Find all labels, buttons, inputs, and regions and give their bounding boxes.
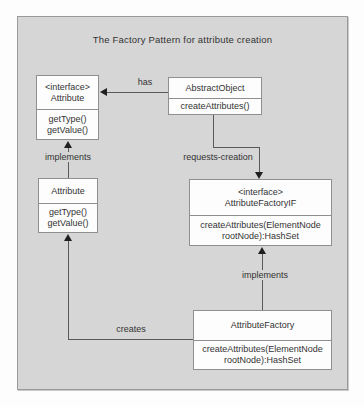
creates-edge-line: [68, 241, 69, 339]
requests-creation-edge-line: [213, 115, 214, 148]
class-name: Attribute: [39, 186, 97, 197]
member-label: getValue(): [37, 125, 98, 136]
creates-edge-line: [68, 339, 193, 340]
class-box-header: AttributeFactory: [194, 311, 331, 341]
class-box-abstract-object: AbstractObject createAttributes(): [168, 77, 262, 115]
has-edge-label: has: [135, 77, 156, 87]
class-box-members: getType() getValue(): [37, 110, 98, 139]
member-label: getValue(): [39, 218, 97, 229]
has-edge-line: [107, 92, 168, 93]
creates-edge-label: creates: [113, 324, 149, 334]
implements-right-edge-line: [262, 254, 263, 310]
class-box-header: AbstractObject: [169, 78, 261, 99]
class-box-members: createAttributes(): [169, 99, 261, 114]
class-box-attribute-factory: AttributeFactory createAttributes(Elemen…: [193, 310, 332, 370]
class-name: AbstractObject: [169, 83, 261, 94]
class-name: AttributeFactoryIF: [190, 198, 331, 209]
requests-creation-edge-line: [213, 147, 260, 148]
diagram-page: The Factory Pattern for attribute creati…: [0, 0, 364, 407]
class-box-members: createAttributes(ElementNode rootNode):H…: [190, 216, 331, 245]
class-box-attribute-interface: <interface> Attribute getType() getValue…: [36, 75, 99, 140]
class-box-members: createAttributes(ElementNode rootNode):H…: [194, 341, 331, 369]
class-box-members: getType() getValue(): [39, 204, 97, 232]
requests-creation-edge-line: [259, 147, 260, 172]
implements-right-arrowhead-icon: [258, 247, 266, 254]
class-box-header: Attribute: [39, 179, 97, 204]
stereotype-label: <interface>: [37, 82, 98, 93]
creates-arrowhead-icon: [64, 234, 72, 241]
class-name: AttributeFactory: [194, 320, 331, 331]
member-label: rootNode):HashSet: [194, 355, 331, 366]
class-box-attribute-factory-if: <interface> AttributeFactoryIF createAtt…: [189, 179, 332, 246]
implements-left-edge-label: implements: [42, 152, 94, 162]
class-box-header: <interface> AttributeFactoryIF: [190, 180, 331, 216]
member-label: createAttributes(ElementNode: [194, 344, 331, 355]
has-arrowhead-icon: [100, 88, 107, 96]
member-label: getType(): [37, 114, 98, 125]
requests-creation-arrowhead-icon: [255, 172, 263, 179]
member-label: rootNode):HashSet: [190, 231, 331, 242]
requests-creation-edge-label: requests-creation: [180, 152, 256, 162]
stereotype-label: <interface>: [190, 187, 331, 198]
member-label: getType(): [39, 207, 97, 218]
class-box-header: <interface> Attribute: [37, 76, 98, 110]
member-label: createAttributes(): [169, 101, 261, 112]
class-name: Attribute: [37, 93, 98, 104]
implements-right-edge-label: implements: [239, 270, 291, 280]
implements-left-arrowhead-icon: [64, 141, 72, 148]
diagram-title: The Factory Pattern for attribute creati…: [17, 34, 348, 45]
member-label: createAttributes(ElementNode: [190, 220, 331, 231]
class-box-attribute: Attribute getType() getValue(): [38, 178, 98, 233]
